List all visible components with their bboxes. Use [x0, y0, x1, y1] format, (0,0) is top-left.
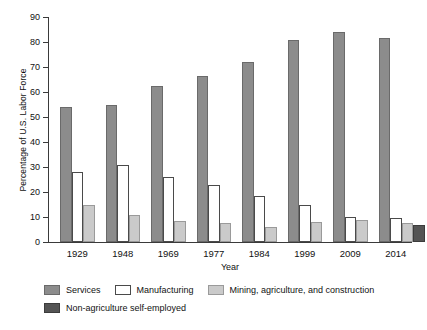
y-tick-label: 80: [30, 37, 40, 47]
bar-manufacturing: [72, 172, 84, 242]
bar-manufacturing: [208, 185, 220, 243]
y-tick-mark: [43, 17, 48, 18]
bar-manufacturing: [299, 205, 311, 243]
legend-swatch-mining: [208, 285, 224, 295]
bar-group: [197, 17, 243, 242]
y-tick-label: 50: [30, 112, 40, 122]
legend-label: Manufacturing: [137, 285, 194, 295]
bar-group: [242, 17, 288, 242]
legend-label: Mining, agriculture, and construction: [230, 285, 375, 295]
bar-group: [60, 17, 106, 242]
x-tick-label: 1969: [158, 248, 179, 259]
bar-services: [106, 105, 118, 243]
bar-selfemployed: [413, 225, 425, 243]
bar-group: [151, 17, 197, 242]
bar-manufacturing: [117, 165, 129, 243]
bar-services: [151, 86, 163, 242]
bar-mining: [265, 227, 277, 242]
bar-manufacturing: [163, 177, 175, 242]
y-tick-mark: [43, 242, 48, 243]
bar-services: [379, 38, 391, 242]
y-tick-label: 0: [35, 237, 40, 247]
bar-mining: [83, 205, 95, 243]
bar-services: [197, 76, 209, 242]
y-tick-mark: [43, 67, 48, 68]
x-tick-label: 2014: [385, 248, 406, 259]
bar-mining: [129, 215, 141, 243]
legend-item: Non-agriculture self-employed: [44, 303, 186, 313]
bar-mining: [220, 223, 232, 242]
y-tick-label: 40: [30, 137, 40, 147]
bar-mining: [311, 222, 323, 242]
bar-manufacturing: [390, 218, 402, 242]
x-tick-label: 2009: [340, 248, 361, 259]
y-tick-mark: [43, 92, 48, 93]
bar-manufacturing: [345, 217, 357, 242]
y-tick-label: 90: [30, 12, 40, 22]
y-axis-title: Percentage of U.S. Labor Force: [18, 30, 28, 230]
bar-services: [60, 107, 72, 242]
bar-group: [379, 17, 425, 242]
legend-item: Manufacturing: [115, 285, 194, 295]
x-tick-label: 1999: [294, 248, 315, 259]
legend-label: Non-agriculture self-employed: [66, 303, 186, 313]
y-tick-mark: [43, 42, 48, 43]
legend-item: Mining, agriculture, and construction: [208, 285, 375, 295]
y-tick-label: 10: [30, 212, 40, 222]
y-tick-mark: [43, 167, 48, 168]
legend-swatch-selfemployed: [44, 303, 60, 313]
bar-manufacturing: [254, 196, 266, 242]
bar-group: [288, 17, 334, 242]
plot-area: 0102030405060708090 19291948196919771984…: [48, 17, 412, 243]
legend-label: Services: [66, 285, 101, 295]
bar-mining: [174, 221, 186, 242]
x-tick-label: 1977: [203, 248, 224, 259]
bar-services: [288, 40, 300, 243]
bar-group: [333, 17, 379, 242]
y-tick-mark: [43, 142, 48, 143]
x-tick-label: 1984: [249, 248, 270, 259]
chart-legend: ServicesManufacturingMining, agriculture…: [44, 281, 424, 317]
y-tick-label: 20: [30, 187, 40, 197]
bar-mining: [356, 220, 368, 243]
legend-item: Services: [44, 285, 101, 295]
legend-row-primary: ServicesManufacturingMining, agriculture…: [44, 281, 424, 299]
y-tick-mark: [43, 117, 48, 118]
y-tick-mark: [43, 192, 48, 193]
x-tick-label: 1929: [67, 248, 88, 259]
y-axis-line: [48, 17, 49, 243]
bar-mining: [402, 223, 414, 242]
legend-swatch-services: [44, 285, 60, 295]
y-tick-label: 70: [30, 62, 40, 72]
x-axis-title: Year: [48, 262, 412, 272]
bar-chart-figure: Percentage of U.S. Labor Force 010203040…: [0, 0, 427, 330]
x-tick-label: 1948: [112, 248, 133, 259]
bar-services: [333, 32, 345, 242]
bar-services: [242, 62, 254, 242]
legend-swatch-manufacturing: [115, 285, 131, 295]
y-tick-label: 60: [30, 87, 40, 97]
bar-group: [106, 17, 152, 242]
y-tick-mark: [43, 217, 48, 218]
y-tick-label: 30: [30, 162, 40, 172]
legend-row-secondary: Non-agriculture self-employed: [44, 299, 424, 317]
x-axis-line: [48, 242, 412, 243]
